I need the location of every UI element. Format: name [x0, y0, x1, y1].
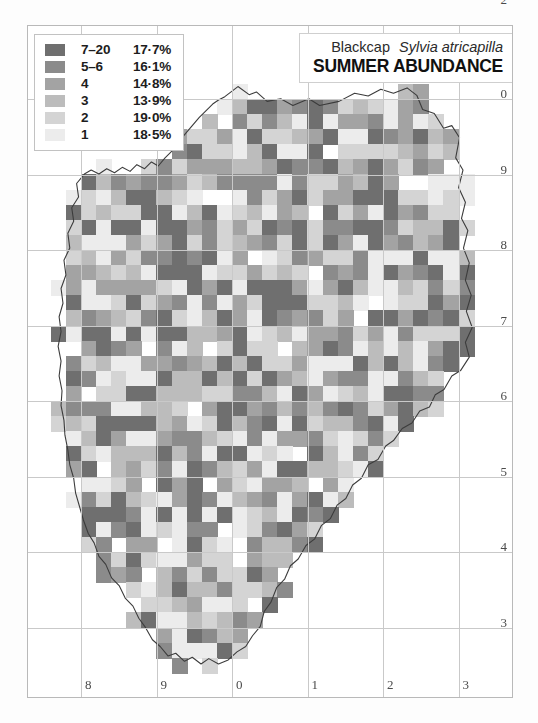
gridline-horizontal — [28, 401, 512, 402]
axis-label-bottom: 9 — [161, 677, 168, 693]
legend-row: 313·9% — [45, 92, 171, 109]
axis-label-right: 4 — [501, 539, 508, 555]
legend-row: 219·0% — [45, 109, 171, 126]
axis-label-bottom: 3 — [463, 677, 470, 693]
gridline-vertical — [308, 26, 309, 697]
distribution-map-figure: 7–2017·7%5–616·1%414·8%313·9%219·0%118·5… — [0, 0, 538, 723]
legend-class-label: 5–6 — [81, 59, 133, 74]
common-name: Blackcap — [331, 39, 390, 55]
axis-label-right: 2 — [501, 0, 508, 8]
legend-swatch — [45, 61, 65, 73]
legend-swatch — [45, 112, 65, 124]
gridline-horizontal — [28, 628, 512, 629]
legend-swatch — [45, 44, 65, 56]
legend-class-label: 3 — [81, 93, 133, 108]
legend-row: 7–2017·7% — [45, 41, 171, 58]
scientific-name: Sylvia atricapilla — [399, 39, 503, 55]
gridline-vertical — [383, 26, 384, 697]
gridline-horizontal — [28, 552, 512, 553]
map-frame: 7–2017·7%5–616·1%414·8%313·9%219·0%118·5… — [27, 25, 513, 698]
legend-row: 414·8% — [45, 75, 171, 92]
legend-percent: 19·0% — [133, 110, 171, 125]
axis-label-bottom: 8 — [85, 677, 92, 693]
gridline-vertical — [459, 26, 460, 697]
legend: 7–2017·7%5–616·1%414·8%313·9%219·0%118·5… — [34, 34, 184, 151]
legend-row: 118·5% — [45, 126, 171, 143]
legend-percent: 14·8% — [133, 76, 171, 91]
gridline-vertical — [232, 26, 233, 697]
legend-percent: 16·1% — [133, 59, 171, 74]
legend-class-label: 7–20 — [81, 42, 133, 57]
gridline-horizontal — [28, 250, 512, 251]
axis-label-right: 9 — [501, 162, 508, 178]
axis-label-right: 7 — [501, 313, 508, 329]
legend-swatch — [45, 129, 65, 141]
legend-class-label: 4 — [81, 76, 133, 91]
axis-label-bottom: 1 — [312, 677, 319, 693]
axis-label-right: 0 — [501, 86, 508, 102]
axis-label-bottom: 2 — [387, 677, 394, 693]
legend-percent: 13·9% — [133, 93, 171, 108]
gridline-horizontal — [28, 326, 512, 327]
gridline-horizontal — [28, 477, 512, 478]
map-subtitle: SUMMER ABUNDANCE — [309, 56, 503, 77]
gridline-horizontal — [28, 175, 512, 176]
title-block: Blackcap Sylvia atricapilla SUMMER ABUND… — [299, 33, 512, 83]
legend-swatch — [45, 95, 65, 107]
legend-percent: 17·7% — [133, 42, 171, 57]
species-name-line: Blackcap Sylvia atricapilla — [309, 38, 503, 56]
axis-label-bottom: 0 — [236, 677, 243, 693]
legend-swatch — [45, 78, 65, 90]
legend-class-label: 1 — [81, 127, 133, 142]
legend-class-label: 2 — [81, 110, 133, 125]
axis-label-right: 5 — [501, 464, 508, 480]
axis-label-right: 3 — [501, 615, 508, 631]
axis-label-right: 6 — [501, 388, 508, 404]
legend-row: 5–616·1% — [45, 58, 171, 75]
legend-percent: 18·5% — [133, 127, 171, 142]
axis-label-right: 8 — [501, 237, 508, 253]
